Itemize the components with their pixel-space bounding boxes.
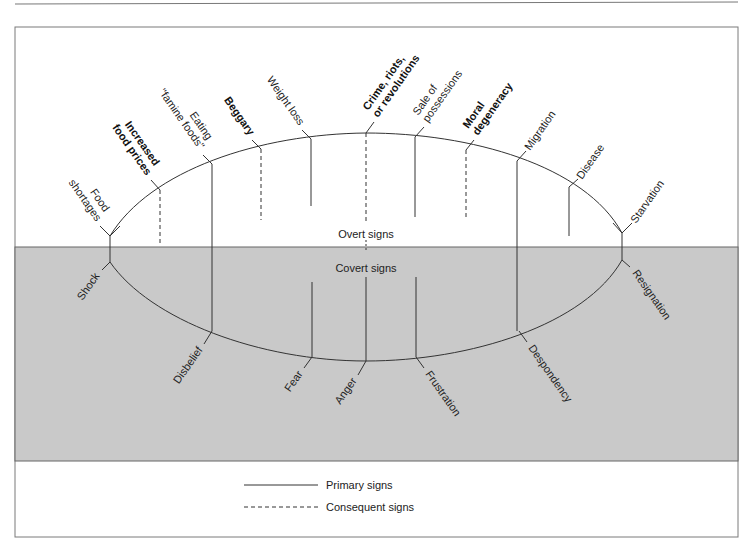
overt-signs-label: Overt signs [338, 228, 394, 240]
famine-signs-diagram: Food shortages Increased food prices Eat… [0, 0, 739, 555]
legend-consequent-label: Consequent signs [326, 501, 415, 513]
covert-signs-band [15, 247, 738, 461]
covert-signs-label: Covert signs [335, 262, 397, 274]
legend-primary-label: Primary signs [326, 479, 393, 491]
top-rule [15, 2, 738, 4]
